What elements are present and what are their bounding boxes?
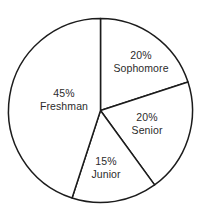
pie-label-junior: 15%Junior	[91, 155, 120, 180]
pie-label-name-sophomore: Sophomore	[113, 61, 168, 74]
pie-label-freshman: 45%Freshman	[40, 87, 88, 112]
pie-label-percent-junior: 15%	[91, 155, 120, 168]
pie-label-name-freshman: Freshman	[40, 99, 88, 112]
pie-label-sophomore: 20%Sophomore	[113, 49, 168, 74]
pie-chart-screenshot: 20%Sophomore20%Senior15%Junior45%Freshma…	[0, 0, 209, 215]
pie-label-name-senior: Senior	[132, 123, 163, 136]
pie-label-percent-sophomore: 20%	[113, 49, 168, 62]
pie-label-percent-senior: 20%	[132, 111, 163, 124]
pie-label-senior: 20%Senior	[132, 111, 163, 136]
pie-label-percent-freshman: 45%	[40, 87, 88, 100]
pie-chart-graphic	[0, 0, 209, 215]
pie-label-name-junior: Junior	[91, 167, 120, 180]
